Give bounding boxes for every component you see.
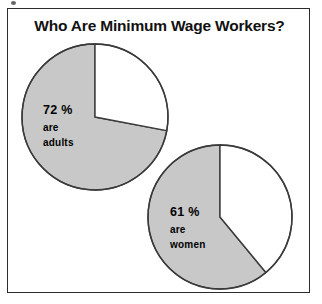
pie-adults-percent: 72 % [43, 104, 74, 117]
scan-artifact-speck [11, 1, 16, 5]
pie-women-percent: 61 % [170, 206, 205, 219]
pie-adults-label: 72 % are adults [43, 104, 74, 153]
pie-slice-adults-white [95, 44, 168, 131]
pie-women-label: 61 % are women [170, 206, 205, 255]
pie-women-line1: are [170, 225, 205, 235]
pie-adults-line2: adults [43, 138, 74, 148]
figure-root: Who Are Minimum Wage Workers? 72 % are a… [0, 0, 322, 304]
pie-chart-women [140, 138, 300, 298]
pie-adults-line1: are [43, 123, 74, 133]
page-title: Who Are Minimum Wage Workers? [8, 17, 311, 35]
pie-women-line2: women [170, 240, 205, 250]
